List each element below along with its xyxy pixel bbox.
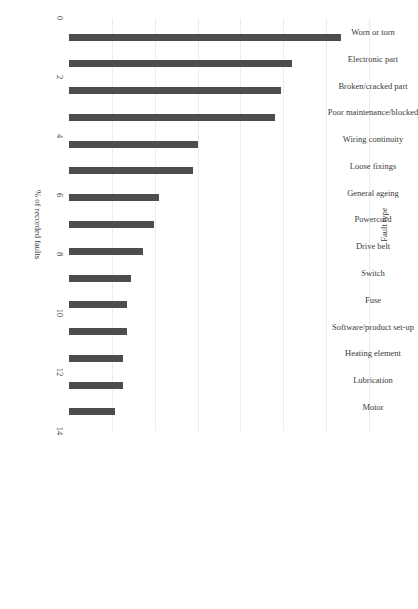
category-label: Poor maintenance/blocked	[328, 107, 418, 117]
axis-tick-label: 14	[55, 427, 65, 436]
bar-slot	[69, 372, 369, 398]
category-label: Motor	[362, 402, 383, 412]
gridline	[369, 18, 370, 431]
bar[interactable]	[69, 34, 341, 41]
category-label: Loose fixings	[350, 161, 397, 171]
category-label: Heating element	[345, 348, 401, 358]
bar-slot	[69, 185, 369, 211]
axis-tick-label: 0	[55, 16, 65, 20]
axis-tick-label: 10	[55, 309, 65, 318]
bar[interactable]	[69, 87, 281, 94]
bar[interactable]	[69, 408, 115, 415]
category-label: Worn or torn	[351, 27, 395, 37]
bar-slot	[69, 104, 369, 130]
bar[interactable]	[69, 194, 159, 201]
bar-slot	[69, 265, 369, 291]
category-label: Software/product set-up	[332, 322, 414, 332]
bar-slot	[69, 399, 369, 425]
category-axis-title: Fault type	[379, 18, 389, 431]
value-axis-title: % of recorded faults	[33, 18, 43, 431]
category-label: Drive belt	[356, 241, 390, 251]
bar[interactable]	[69, 248, 143, 255]
bar[interactable]	[69, 328, 127, 335]
bar-series	[69, 18, 369, 431]
value-axis-ticks: 02468101214	[47, 18, 65, 431]
bar-slot	[69, 292, 369, 318]
category-label: Electronic part	[348, 54, 398, 64]
axis-tick-label: 6	[55, 193, 65, 197]
category-label: General ageing	[347, 188, 399, 198]
category-label: Powercord	[355, 214, 392, 224]
axis-tick-label: 2	[55, 75, 65, 79]
bar-slot	[69, 78, 369, 104]
bar-slot	[69, 24, 369, 50]
bar[interactable]	[69, 355, 123, 362]
bar[interactable]	[69, 167, 193, 174]
bar-slot	[69, 238, 369, 264]
bar-slot	[69, 319, 369, 345]
category-label: Lubrication	[353, 375, 393, 385]
axis-tick-label: 12	[55, 368, 65, 377]
bar-slot	[69, 131, 369, 157]
bar-slot	[69, 211, 369, 237]
bar[interactable]	[69, 301, 127, 308]
axis-tick-label: 4	[55, 134, 65, 138]
category-label: Wiring continuity	[343, 134, 403, 144]
plot-area	[69, 18, 369, 431]
axis-tick-label: 8	[55, 252, 65, 256]
bar-slot	[69, 51, 369, 77]
bar[interactable]	[69, 114, 275, 121]
category-label: Fuse	[365, 295, 381, 305]
bar-slot	[69, 345, 369, 371]
bar[interactable]	[69, 382, 123, 389]
bar[interactable]	[69, 275, 131, 282]
bar[interactable]	[69, 141, 198, 148]
category-label: Broken/cracked part	[338, 81, 407, 91]
bar-slot	[69, 158, 369, 184]
bar[interactable]	[69, 60, 292, 67]
bar[interactable]	[69, 221, 154, 228]
category-label: Switch	[361, 268, 385, 278]
